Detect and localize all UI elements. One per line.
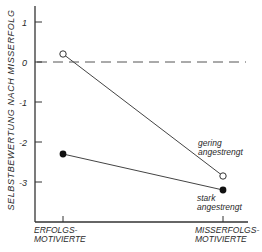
series-line (63, 154, 223, 190)
y-tick-label: -3 (19, 178, 27, 188)
series-label: angestrengt (198, 147, 244, 157)
y-tick-label: 0 (22, 58, 27, 68)
y-axis-label: SELBSTBEWERTUNG NACH MISSERFOLG (6, 10, 16, 211)
x-ticks: ERFOLGS-MOTIVIERTEMISSERFOLGS-MOTIVIERTE (34, 216, 259, 244)
x-tick-label: MOTIVIERTE (195, 234, 247, 244)
series-line (63, 54, 223, 176)
series-label: angestrengt (197, 202, 243, 212)
y-ticks: 10-1-2-3 (19, 18, 42, 188)
data-series: geringangestrengtstarkangestrengt (60, 51, 244, 212)
filled-circle-marker (220, 187, 227, 194)
filled-circle-marker (60, 151, 67, 158)
line-chart: 10-1-2-3 ERFOLGS-MOTIVIERTEMISSERFOLGS-M… (0, 0, 262, 252)
y-tick-label: 1 (22, 18, 27, 28)
y-axis-title: SELBSTBEWERTUNG NACH MISSERFOLG (6, 10, 16, 211)
open-circle-marker (60, 51, 66, 57)
x-tick-label: MOTIVIERTE (34, 234, 86, 244)
y-tick-label: -1 (19, 98, 27, 108)
open-circle-marker (220, 173, 226, 179)
y-tick-label: -2 (19, 138, 27, 148)
